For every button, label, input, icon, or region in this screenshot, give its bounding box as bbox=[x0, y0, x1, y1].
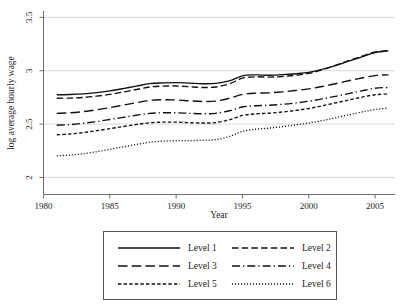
y-axis-title: log average hourly wage bbox=[6, 56, 16, 150]
x-axis-title: Year bbox=[210, 210, 228, 220]
gridlines-group bbox=[44, 17, 396, 177]
x-ticklabel-2000: 2000 bbox=[300, 201, 319, 211]
legend-label-level-3[interactable]: Level 3 bbox=[188, 261, 217, 271]
series-line-level-3 bbox=[57, 75, 389, 114]
y-axis-ticklabels-group: 22.533.5 bbox=[24, 11, 34, 179]
series-line-level-1 bbox=[57, 51, 389, 95]
x-ticklabel-1995: 1995 bbox=[233, 201, 252, 211]
legend-label-level-6[interactable]: Level 6 bbox=[302, 279, 331, 289]
series-line-level-4 bbox=[57, 87, 389, 125]
series-line-level-6 bbox=[57, 108, 389, 155]
line-chart-canvas: 22.533.5 198019851990199520002005 log av… bbox=[0, 0, 403, 307]
x-ticklabel-1990: 1990 bbox=[167, 201, 186, 211]
chart-figure: 22.533.5 198019851990199520002005 log av… bbox=[0, 0, 403, 307]
data-series-group bbox=[57, 51, 389, 156]
y-ticklabel-2.5: 2.5 bbox=[24, 118, 34, 130]
x-axis-ticks-group bbox=[44, 195, 376, 199]
y-ticklabel-2: 2 bbox=[24, 175, 34, 180]
y-ticklabel-3.5: 3.5 bbox=[24, 11, 34, 23]
legend-label-level-2[interactable]: Level 2 bbox=[302, 243, 331, 253]
y-ticklabel-3: 3 bbox=[24, 68, 34, 73]
legend-label-level-1[interactable]: Level 1 bbox=[188, 243, 217, 253]
x-axis-ticklabels-group: 198019851990199520002005 bbox=[35, 201, 385, 211]
x-ticklabel-1985: 1985 bbox=[101, 201, 120, 211]
legend-label-level-4[interactable]: Level 4 bbox=[302, 261, 331, 271]
legend-label-level-5[interactable]: Level 5 bbox=[188, 279, 217, 289]
x-ticklabel-1980: 1980 bbox=[35, 201, 54, 211]
y-axis-ticks-group bbox=[40, 17, 44, 177]
x-ticklabel-2005: 2005 bbox=[366, 201, 385, 211]
